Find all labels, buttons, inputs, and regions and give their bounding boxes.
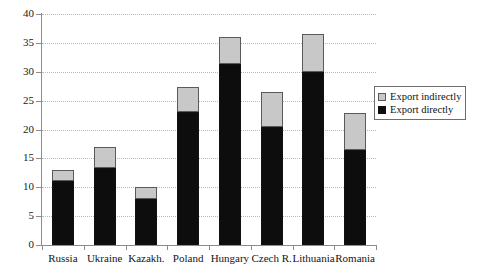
- y-axis-tick-label: 5: [0, 210, 34, 221]
- y-axis-tick-label: 0: [0, 239, 34, 250]
- y-axis-tick: [36, 158, 42, 159]
- x-axis-tick: [334, 245, 335, 250]
- bar-segment-export-directly: [94, 168, 116, 245]
- x-axis-label-lithuania: Lithuania: [293, 252, 335, 265]
- bar-poland: [177, 14, 199, 245]
- gridline: [42, 187, 376, 188]
- y-axis-tick: [36, 72, 42, 73]
- gridline: [42, 216, 376, 217]
- x-axis-tick: [42, 245, 43, 250]
- bar-russia: [52, 14, 74, 245]
- bar-segment-export-directly: [344, 150, 366, 245]
- x-axis-label-russia: Russia: [42, 252, 84, 265]
- gridline: [42, 130, 376, 131]
- chart-legend: Export indirectlyExport directly: [374, 86, 466, 120]
- x-axis-tick: [376, 245, 377, 250]
- bar-segment-export-indirectly: [302, 34, 324, 72]
- gridline: [42, 101, 376, 102]
- bar-segment-export-directly: [177, 112, 199, 245]
- bar-hungary: [219, 14, 241, 245]
- legend-item-label: Export directly: [390, 104, 453, 116]
- indirect-swatch: [378, 93, 386, 101]
- bar-romania: [344, 14, 366, 245]
- x-axis-tick: [84, 245, 85, 250]
- x-axis-tick: [167, 245, 168, 250]
- y-axis-tick-label: 35: [0, 37, 34, 48]
- bar-kazakh: [135, 14, 157, 245]
- bar-lithuania: [302, 14, 324, 245]
- bar-segment-export-directly: [135, 199, 157, 245]
- bar-segment-export-directly: [52, 181, 74, 245]
- x-axis-label-romania: Romania: [334, 252, 376, 265]
- x-axis-tick: [126, 245, 127, 250]
- y-axis-tick-label: 15: [0, 152, 34, 163]
- y-axis-tick-label: 40: [0, 8, 34, 19]
- bar-segment-export-indirectly: [52, 170, 74, 182]
- y-axis-tick: [36, 130, 42, 131]
- y-axis-tick: [36, 216, 42, 217]
- x-axis-label-ukraine: Ukraine: [84, 252, 126, 265]
- x-axis-label-hungary: Hungary: [209, 252, 251, 265]
- y-axis-tick: [36, 187, 42, 188]
- x-axis-label-poland: Poland: [167, 252, 209, 265]
- y-axis-tick: [36, 101, 42, 102]
- bar-segment-export-indirectly: [219, 37, 241, 64]
- bar-segment-export-indirectly: [261, 92, 283, 127]
- y-axis-tick-label: 20: [0, 124, 34, 135]
- gridline: [42, 14, 376, 15]
- direct-swatch: [378, 106, 386, 114]
- x-axis-tick: [209, 245, 210, 250]
- legend-item: Export directly: [378, 103, 461, 116]
- bar-segment-export-directly: [219, 64, 241, 245]
- legend-item: Export indirectly: [378, 90, 461, 103]
- y-axis-tick: [36, 14, 42, 15]
- legend-item-label: Export indirectly: [390, 91, 461, 103]
- bar-segment-export-indirectly: [94, 147, 116, 168]
- bar-segment-export-indirectly: [135, 187, 157, 199]
- y-axis-tick-label: 10: [0, 181, 34, 192]
- y-axis-tick-label: 25: [0, 95, 34, 106]
- bar-segment-export-directly: [261, 127, 283, 245]
- y-axis-tick: [36, 43, 42, 44]
- x-axis-tick: [293, 245, 294, 250]
- gridline: [42, 72, 376, 73]
- bar-czech-r: [261, 14, 283, 245]
- bar-segment-export-directly: [302, 72, 324, 245]
- stacked-bar-chart: 0510152025303540 RussiaUkraineKazakh.Pol…: [0, 0, 482, 276]
- gridline: [42, 158, 376, 159]
- x-axis-tick: [251, 245, 252, 250]
- bar-segment-export-indirectly: [177, 87, 199, 112]
- x-axis-label-kazakh: Kazakh.: [126, 252, 168, 265]
- bar-segment-export-indirectly: [344, 113, 366, 149]
- bar-ukraine: [94, 14, 116, 245]
- x-axis-label-czech-r: Czech R.: [251, 252, 293, 265]
- gridline: [42, 43, 376, 44]
- plot-area: [42, 14, 376, 245]
- y-axis-tick-label: 30: [0, 66, 34, 77]
